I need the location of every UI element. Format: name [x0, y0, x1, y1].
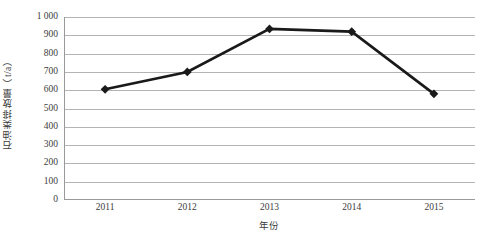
x-axis-tick-label: 2015	[424, 203, 443, 213]
x-axis-tick-label: 2011	[96, 203, 115, 213]
y-axis-tick-label: 500	[44, 104, 58, 114]
y-axis-tick-label: 100	[44, 177, 58, 187]
y-axis-tick-labels: 01002003004005006007008009001 000	[18, 17, 62, 200]
y-axis-tick-label: 1 000	[37, 12, 58, 22]
y-axis-title-text: 石油类排放量（t/a）	[4, 56, 14, 150]
y-axis-tick-label: 0	[53, 195, 58, 205]
x-axis-tick-label: 2012	[178, 203, 197, 213]
series-line	[105, 29, 434, 94]
data-point-marker	[183, 68, 192, 77]
y-axis-tick-label: 900	[44, 31, 58, 41]
y-axis-tick-label: 600	[44, 85, 58, 95]
y-axis-title: 石油类排放量（t/a）	[0, 0, 18, 205]
y-axis-tick-label: 800	[44, 49, 58, 59]
plot-area	[64, 17, 475, 200]
data-point-marker	[101, 85, 110, 94]
data-series-svg	[64, 17, 475, 200]
y-axis-tick-label: 400	[44, 122, 58, 132]
x-axis-title: 年份	[64, 222, 475, 232]
x-axis-tick-label: 2014	[342, 203, 361, 213]
y-axis-tick-label: 300	[44, 140, 58, 150]
data-point-marker	[265, 24, 274, 33]
line-chart: 石油类排放量（t/a） 0100200300400500600700800900…	[0, 0, 488, 250]
x-axis-tick-labels: 20112012201320142015	[64, 203, 475, 219]
y-axis-tick-label: 700	[44, 67, 58, 77]
y-axis-tick-label: 200	[44, 159, 58, 169]
x-axis-tick-label: 2013	[260, 203, 279, 213]
